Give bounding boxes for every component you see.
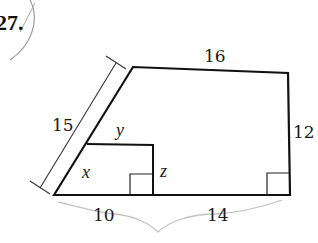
label-var-z: z bbox=[159, 161, 167, 181]
pencil-brace-mark bbox=[58, 200, 282, 232]
geometry-figure: 27. 16 12 15 10 14 y x z bbox=[0, 0, 318, 243]
inner-segment-y-z bbox=[87, 144, 153, 195]
label-top-16: 16 bbox=[204, 46, 226, 66]
dimension-tick-bottom bbox=[30, 181, 50, 194]
label-bottom-14: 14 bbox=[207, 205, 229, 225]
label-slant-15: 15 bbox=[52, 115, 74, 135]
label-var-x: x bbox=[81, 162, 90, 182]
label-bottom-10: 10 bbox=[93, 205, 115, 225]
label-right-12: 12 bbox=[293, 122, 315, 142]
problem-number: 27. bbox=[0, 10, 24, 35]
right-angle-marker-outer bbox=[267, 173, 290, 195]
dimension-tick-top bbox=[106, 56, 126, 69]
label-var-y: y bbox=[114, 120, 124, 140]
figure-canvas: 27. 16 12 15 10 14 y x z bbox=[0, 0, 318, 243]
right-angle-marker-inner bbox=[130, 174, 153, 195]
